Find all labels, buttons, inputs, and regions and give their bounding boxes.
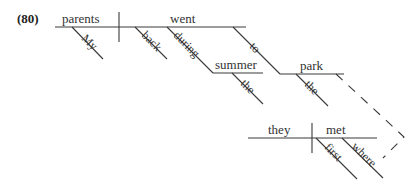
word-parents: parents: [62, 12, 100, 25]
sentence-diagram: (80) parents went summer park: [0, 0, 419, 188]
word-summer: summer: [215, 58, 257, 71]
word-went: went: [170, 12, 195, 25]
word-met: met: [326, 123, 346, 136]
word-they: they: [268, 123, 290, 136]
word-park: park: [300, 59, 323, 72]
diagram-lines: [0, 0, 419, 188]
dashed-connector: [336, 74, 404, 158]
